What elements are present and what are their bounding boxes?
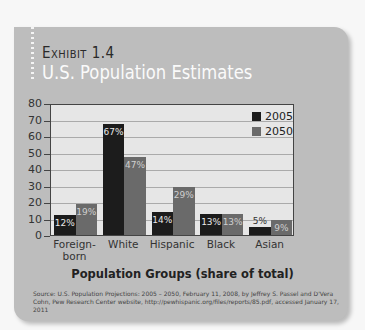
bar-2005-white: 67% — [103, 124, 125, 235]
y-tick-label: 70 — [20, 114, 42, 127]
x-category-label: Asian — [246, 238, 294, 250]
data-label: 9% — [271, 223, 293, 233]
y-tick-label: 20 — [20, 196, 42, 209]
legend-item-2005: 2005 — [252, 109, 293, 124]
data-label: 19% — [76, 207, 98, 217]
bar-2050-foreignborn: 19% — [76, 204, 98, 235]
chart-title: U.S. Population Estimates — [42, 60, 252, 84]
y-tick-mark — [44, 236, 50, 237]
x-category-label: Foreign-born — [51, 238, 99, 262]
gridline — [51, 187, 293, 188]
legend-label-2005: 2005 — [265, 110, 293, 123]
legend-swatch-2050 — [252, 127, 261, 136]
y-tick-label: 60 — [20, 130, 42, 143]
data-label: 13% — [222, 217, 244, 227]
gridline — [51, 154, 293, 155]
data-label: 67% — [103, 127, 125, 137]
y-tick-label: 80 — [20, 97, 42, 110]
y-tick-label: 40 — [20, 163, 42, 176]
y-tick-label: 30 — [20, 180, 42, 193]
x-category-label: Hispanic — [148, 238, 196, 250]
source-citation: Source: U.S. Population Projections: 200… — [33, 290, 343, 314]
x-category-label: White — [99, 238, 147, 250]
x-axis-label: Population Groups (share of total) — [0, 267, 365, 281]
bar-2050-hispanic: 29% — [173, 187, 195, 235]
data-label: 13% — [200, 217, 222, 227]
bar-2005-foreignborn: 12% — [54, 215, 76, 235]
legend-item-2050: 2050 — [252, 124, 293, 139]
data-label: 12% — [54, 218, 76, 228]
legend: 2005 2050 — [252, 109, 293, 139]
data-label: 5% — [249, 216, 271, 226]
y-tick-label: 10 — [20, 213, 42, 226]
data-label: 14% — [152, 215, 174, 225]
y-tick-label: 0 — [20, 229, 42, 242]
bar-2005-hispanic: 14% — [152, 212, 174, 235]
bar-2005-asian: 5% — [249, 227, 271, 235]
dotted-accent-line — [31, 27, 34, 82]
bar-2050-asian: 9% — [271, 220, 293, 235]
bar-2050-black: 13% — [222, 214, 244, 235]
x-category-label: Black — [197, 238, 245, 250]
gridline — [51, 170, 293, 171]
bar-2005-black: 13% — [200, 214, 222, 235]
bar-2050-white: 47% — [124, 157, 146, 235]
legend-swatch-2005 — [252, 112, 261, 121]
legend-label-2050: 2050 — [265, 125, 293, 138]
data-label: 29% — [173, 190, 195, 200]
y-tick-label: 50 — [20, 147, 42, 160]
data-label: 47% — [124, 160, 146, 170]
